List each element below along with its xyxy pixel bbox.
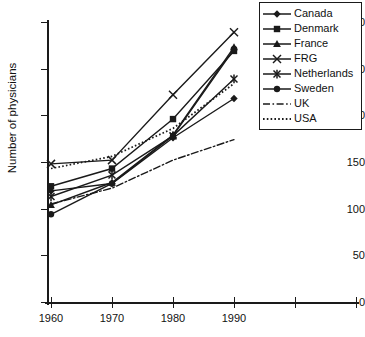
legend-label: UK <box>292 98 309 109</box>
legend-label: France <box>292 38 328 49</box>
legend-label: USA <box>292 113 317 124</box>
circle-marker <box>170 133 176 139</box>
asterisk-marker <box>109 171 116 180</box>
legend-label: Sweden <box>292 83 334 94</box>
legend-item-uk[interactable]: UK <box>262 96 359 111</box>
legend-label: Denmark <box>292 23 339 34</box>
chart-legend: CanadaDenmarkFranceFRGNetherlandsSwedenU… <box>259 2 362 130</box>
legend-swatch-diamond-icon <box>262 7 292 21</box>
legend-label: Canada <box>292 8 333 19</box>
legend-swatch-none-icon <box>262 97 292 111</box>
cross-marker <box>169 91 177 99</box>
legend-swatch-asterisk-icon <box>262 67 292 81</box>
square-marker <box>274 25 280 31</box>
legend-item-frg[interactable]: FRG <box>262 51 359 66</box>
diamond-marker <box>273 10 280 17</box>
legend-label: FRG <box>292 53 317 64</box>
legend-swatch-none-icon <box>262 112 292 126</box>
series-frg <box>47 28 238 168</box>
diamond-marker <box>230 95 237 102</box>
circle-marker <box>231 46 237 52</box>
asterisk-marker <box>48 192 55 201</box>
legend-item-denmark[interactable]: Denmark <box>262 21 359 36</box>
square-marker <box>170 116 176 122</box>
legend-item-usa[interactable]: USA <box>262 111 359 126</box>
legend-swatch-cross-icon <box>262 52 292 66</box>
chart-figure: Number of physicians 0 50 100 150 200 25… <box>0 0 365 337</box>
legend-item-sweden[interactable]: Sweden <box>262 81 359 96</box>
series-sweden <box>48 46 237 218</box>
legend-item-france[interactable]: France <box>262 36 359 51</box>
legend-label: Netherlands <box>292 68 353 79</box>
circle-marker <box>48 211 54 217</box>
series-france <box>47 43 238 208</box>
series-denmark <box>48 48 237 190</box>
cross-marker <box>230 28 238 36</box>
asterisk-marker <box>231 75 238 84</box>
legend-swatch-square-icon <box>262 22 292 36</box>
circle-marker <box>274 85 280 91</box>
legend-swatch-triangle-icon <box>262 37 292 51</box>
square-marker <box>48 183 54 189</box>
legend-item-netherlands[interactable]: Netherlands <box>262 66 359 81</box>
series-netherlands <box>48 75 238 201</box>
circle-marker <box>109 180 115 186</box>
legend-swatch-circle-icon <box>262 82 292 96</box>
legend-item-canada[interactable]: Canada <box>262 6 359 21</box>
